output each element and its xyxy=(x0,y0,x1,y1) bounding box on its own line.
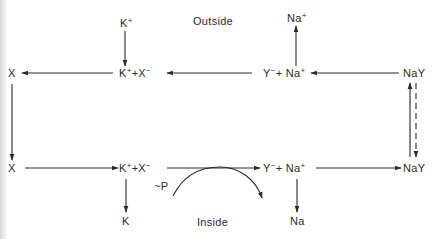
ion-transport-diagram: Outside Inside K+ Na+ X K++X− Y−+ Na+ Na… xyxy=(0,0,441,239)
node-yna-bottom: Y−+ Na+ xyxy=(263,162,305,174)
diagram-arrows xyxy=(0,0,441,239)
na-symbol: Na xyxy=(287,12,302,24)
node-kx-bottom: K++X− xyxy=(119,162,151,174)
k-charge: + xyxy=(128,16,133,25)
node-na-inside: Na xyxy=(290,215,305,227)
outside-label: Outside xyxy=(193,15,233,27)
plus-sign: + xyxy=(276,67,283,79)
energy-phosphate-label: ~P xyxy=(154,180,168,192)
energy-coupling-arc xyxy=(173,167,262,198)
plus-sign: + xyxy=(276,162,283,174)
node-yna-top: Y−+ Na+ xyxy=(263,67,305,79)
k-symbol: K xyxy=(120,17,128,29)
y-symbol: Y xyxy=(263,162,271,174)
na-symbol: Na xyxy=(286,162,301,174)
node-nay-bottom: NaY xyxy=(403,162,425,174)
node-na-ion-outside: Na+ xyxy=(287,12,307,24)
x-charge: − xyxy=(146,161,151,170)
node-kx-top: K++X− xyxy=(119,67,151,79)
node-k-ion-outside: K+ xyxy=(120,17,133,29)
na-symbol: Na xyxy=(286,67,301,79)
y-symbol: Y xyxy=(263,67,271,79)
na-charge: + xyxy=(300,161,305,170)
k-symbol: K xyxy=(119,67,127,79)
x-symbol: X xyxy=(138,67,146,79)
na-charge: + xyxy=(300,66,305,75)
k-symbol: K xyxy=(119,162,127,174)
x-symbol: X xyxy=(138,162,146,174)
x-charge: − xyxy=(146,66,151,75)
node-nay-top: NaY xyxy=(403,67,425,79)
node-x-bottom: X xyxy=(8,162,16,174)
inside-label: Inside xyxy=(197,216,228,228)
node-x-top: X xyxy=(8,67,16,79)
na-charge: + xyxy=(302,11,307,20)
node-k-inside: K xyxy=(122,215,130,227)
